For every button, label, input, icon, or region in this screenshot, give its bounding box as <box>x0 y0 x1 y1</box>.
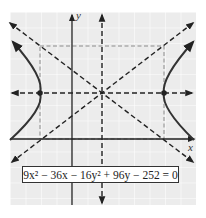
x-axis-label: x <box>188 141 193 153</box>
center-point <box>101 92 103 94</box>
equation-box: 9x² − 36x − 16y² + 96y − 252 = 0 <box>22 166 179 183</box>
y-axis-label: y <box>76 9 81 21</box>
vertex-left <box>37 90 43 96</box>
hyperbola-plot <box>0 0 206 218</box>
vertex-right <box>161 90 167 96</box>
